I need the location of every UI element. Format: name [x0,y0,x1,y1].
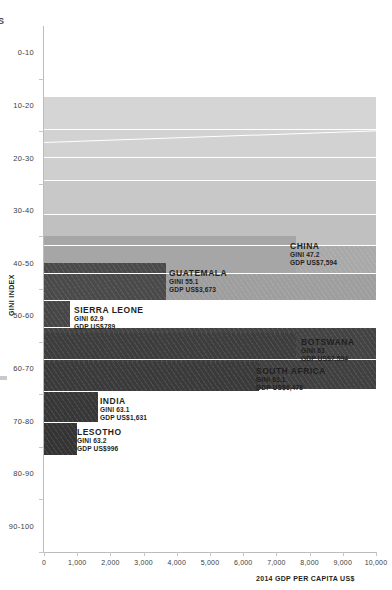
bar-unlabeled [44,96,376,129]
x-axis-tick [110,552,111,556]
callout-gini-value: GINI 62.9 [74,316,143,323]
x-axis-tick-label: 1,000 [68,559,87,566]
callout-south-africa: SOUTH AFRICAGINI 63.1GDP US$6,478 [256,367,326,392]
callout-country-name: BOTSWANA [301,338,355,347]
callout-gini-value: GINI 55.1 [169,279,227,286]
bar-separator [44,300,376,301]
x-axis-tick-label: 4,000 [168,559,187,566]
x-axis-title: 2014 GDP PER CAPITA US$ [256,575,355,582]
callout-gini-value: GINI 63.1 [256,377,326,384]
callout-gdp-value: GDP US$1,631 [100,415,147,422]
x-axis-tick [210,552,211,556]
y-axis-tick-label: 10-20 [0,101,34,110]
y-axis-tick-label: 80-90 [0,469,34,478]
x-axis-tick-label: 3,000 [134,559,153,566]
bar-separator [44,129,376,130]
callout-lesotho: LESOTHOGINI 63.2GDP US$996 [77,428,122,453]
x-axis-tick [376,552,377,556]
x-axis-tick [310,552,311,556]
callout-country-name: SOUTH AFRICA [256,367,326,376]
callout-gdp-value: GDP US$7,594 [290,260,337,267]
corner-glyph: S [0,16,4,26]
bar-separator [44,96,376,97]
callout-gini-value: GINI 63.1 [100,407,147,414]
callout-country-name: CHINA [290,242,337,251]
x-axis-tick-label: 7,000 [267,559,286,566]
bar-unlabeled [44,129,376,157]
x-axis-tick [77,552,78,556]
x-axis-tick [343,552,344,556]
callout-gini-value: GINI 63.2 [77,438,122,445]
y-axis-tick [39,131,44,132]
callout-country-name: GUATEMALA [169,269,227,278]
bar-separator [44,391,376,392]
callout-gini-value: GINI 47.2 [290,252,337,259]
bar-guatemala [44,263,166,300]
bar-india [44,392,98,422]
y-axis-tick-label: 20-30 [0,154,34,163]
x-axis-tick [144,552,145,556]
y-axis-title: GINI INDEX [8,274,15,316]
callout-gdp-value: GDP US$789 [74,324,143,331]
y-axis-tick [39,394,44,395]
x-axis-tick-label: 0 [42,559,46,566]
y-axis-tick [39,447,44,448]
callout-sierra-leone: SIERRA LEONEGINI 62.9GDP US$789 [74,306,143,331]
x-axis-tick-label: 8,000 [300,559,319,566]
callout-gini-value: GINI 63 [301,348,355,355]
left-edge-marker [0,376,7,380]
callout-country-name: LESOTHO [77,428,122,437]
y-axis-tick-label: 0-10 [0,48,34,57]
callout-gdp-value: GDP US$7,594 [301,356,355,363]
bar-south-africa [44,362,259,391]
callout-country-name: INDIA [100,397,147,406]
y-axis-tick [39,79,44,80]
y-axis-tick-label: 90-100 [0,522,34,531]
callout-china: CHINAGINI 47.2GDP US$7,594 [290,242,337,267]
y-axis-tick-label: 30-40 [0,206,34,215]
callout-guatemala: GUATEMALAGINI 55.1GDP US$3,673 [169,269,227,294]
x-axis-tick-label: 9,000 [334,559,353,566]
y-axis-tick-label: 40-50 [0,259,34,268]
x-axis-tick [276,552,277,556]
bar-botswana [44,333,296,361]
callout-gdp-value: GDP US$996 [77,446,122,453]
y-axis-tick [39,499,44,500]
x-axis-tick [243,552,244,556]
gini-gdp-chart: S GINI INDEX 0-1010-2020-3030-4040-5050-… [0,0,392,590]
y-axis-tick [39,289,44,290]
y-axis-tick [39,184,44,185]
x-axis-tick-label: 2,000 [101,559,120,566]
bar-unlabeled [44,157,376,180]
bar-separator [44,455,376,456]
callout-gdp-value: GDP US$6,478 [256,385,326,392]
x-axis-tick [177,552,178,556]
y-axis-tick-label: 60-70 [0,364,34,373]
callout-botswana: BOTSWANAGINI 63GDP US$7,594 [301,338,355,363]
bar-separator [44,214,376,215]
x-axis-tick-label: 5,000 [201,559,220,566]
bar-separator [44,157,376,158]
y-axis-tick-label: 70-80 [0,417,34,426]
bar-separator [44,422,376,423]
callout-gdp-value: GDP US$3,673 [169,287,227,294]
bar-sierra-leone [44,301,70,327]
x-axis-tick-label: 6,000 [234,559,253,566]
x-axis-tick [44,552,45,556]
y-axis-tick-label: 50-60 [0,311,34,320]
bar-lesotho [44,423,77,456]
y-axis-tick [39,342,44,343]
bar-unlabeled [44,180,376,214]
bar-separator [44,180,376,181]
callout-india: INDIAGINI 63.1GDP US$1,631 [100,397,147,422]
x-axis-tick-label: 10,000 [365,559,388,566]
callout-country-name: SIERRA LEONE [74,306,143,315]
y-axis-tick [39,236,44,237]
